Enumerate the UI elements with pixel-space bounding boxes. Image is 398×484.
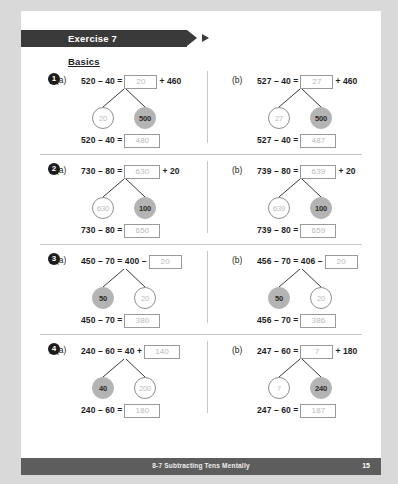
exercise-banner: Exercise 7 bbox=[21, 30, 204, 47]
bond-circle-left[interactable]: 27 bbox=[268, 107, 290, 129]
bond-circle-left: 50 bbox=[268, 287, 290, 309]
top-equation-prefix: 240 – 60 = 40 + bbox=[81, 346, 142, 356]
bond-circle-right: 500 bbox=[310, 107, 332, 129]
number-bond: 7240 bbox=[266, 357, 358, 401]
bottom-equation-prefix: 527 – 40 = bbox=[257, 135, 298, 145]
top-equation-prefix: 527 – 40 = bbox=[257, 76, 298, 86]
bottom-equation-prefix: 247 – 60 = bbox=[257, 405, 298, 415]
problem-1-part-a: (a)520 – 40 =20+ 46020500520 – 40 =480 bbox=[40, 65, 220, 155]
bond-circle-left: 50 bbox=[92, 287, 114, 309]
part-label: (a) bbox=[56, 165, 66, 175]
problem-4-part-b: (b)247 – 60 =7+ 1807240247 – 60 =187 bbox=[216, 335, 396, 425]
problem-1-part-b: (b)527 – 40 =27+ 46027500527 – 40 =487 bbox=[216, 65, 396, 155]
bond-circle-left[interactable]: 630 bbox=[92, 197, 114, 219]
bottom-equation: 520 – 40 =480 bbox=[81, 134, 162, 148]
banner-tip-icon bbox=[187, 30, 197, 46]
bottom-answer-box[interactable]: 659 bbox=[300, 224, 336, 238]
part-label: (b) bbox=[232, 165, 242, 175]
top-equation-suffix: + 460 bbox=[159, 76, 181, 86]
top-equation-prefix: 247 – 60 = bbox=[257, 346, 298, 356]
number-bond: 630100 bbox=[90, 177, 182, 221]
problem-2-part-b: (b)739 – 80 =639+ 20639100739 – 80 =659 bbox=[216, 155, 396, 245]
page-footer: 8-7 Subtracting Tens Mentally 15 bbox=[21, 458, 381, 475]
part-label: (a) bbox=[56, 345, 66, 355]
bottom-answer-box[interactable]: 650 bbox=[124, 224, 160, 238]
worksheet-page: Exercise 7 Basics 1(a)520 – 40 =20+ 4602… bbox=[21, 11, 381, 475]
part-label: (b) bbox=[232, 75, 242, 85]
bond-circle-left[interactable]: 639 bbox=[268, 197, 290, 219]
problem-4: 4(a)240 – 60 = 40 +14040200240 – 60 =180… bbox=[21, 335, 381, 425]
part-label: (b) bbox=[232, 255, 242, 265]
part-label: (a) bbox=[56, 75, 66, 85]
bond-circle-right: 100 bbox=[310, 197, 332, 219]
bond-circle-left[interactable]: 7 bbox=[268, 377, 290, 399]
part-label: (b) bbox=[232, 345, 242, 355]
top-equation-prefix: 739 – 80 = bbox=[257, 166, 298, 176]
problem-3-part-b: (b)456 – 70 = 406 –205020456 – 70 =386 bbox=[216, 245, 396, 335]
bottom-equation-prefix: 240 – 60 = bbox=[81, 405, 122, 415]
bond-circle-right: 100 bbox=[134, 197, 156, 219]
top-equation-suffix: + 180 bbox=[335, 346, 357, 356]
bottom-equation-prefix: 730 – 80 = bbox=[81, 225, 122, 235]
top-equation-prefix: 456 – 70 = 406 – bbox=[257, 256, 323, 266]
banner-arrow-icon bbox=[202, 34, 209, 42]
top-equation-suffix: + 460 bbox=[335, 76, 357, 86]
problem-3: 3(a)450 – 70 = 400 –205020450 – 70 =380(… bbox=[21, 245, 381, 335]
number-bond: 5020 bbox=[266, 267, 358, 311]
bottom-answer-box[interactable]: 180 bbox=[124, 404, 160, 418]
bottom-equation-prefix: 456 – 70 = bbox=[257, 315, 298, 325]
number-bond: 27500 bbox=[266, 87, 358, 131]
problem-4-part-a: (a)240 – 60 = 40 +14040200240 – 60 =180 bbox=[40, 335, 220, 425]
bottom-answer-box[interactable]: 480 bbox=[124, 134, 160, 148]
bond-circle-right[interactable]: 20 bbox=[134, 287, 156, 309]
bond-circle-left: 40 bbox=[92, 377, 114, 399]
bottom-answer-box[interactable]: 386 bbox=[300, 314, 336, 328]
problem-2: 2(a)730 – 80 =630+ 20630100730 – 80 =650… bbox=[21, 155, 381, 245]
bond-circle-right: 240 bbox=[310, 377, 332, 399]
problem-1: 1(a)520 – 40 =20+ 46020500520 – 40 =480(… bbox=[21, 65, 381, 155]
bottom-answer-box[interactable]: 187 bbox=[300, 404, 336, 418]
bottom-equation: 450 – 70 =380 bbox=[81, 314, 162, 328]
problem-2-part-a: (a)730 – 80 =630+ 20630100730 – 80 =650 bbox=[40, 155, 220, 245]
bottom-answer-box[interactable]: 487 bbox=[300, 134, 336, 148]
number-bond: 40200 bbox=[90, 357, 182, 401]
bottom-equation-prefix: 520 – 40 = bbox=[81, 135, 122, 145]
top-equation-suffix: + 20 bbox=[162, 166, 179, 176]
bottom-equation: 527 – 40 =487 bbox=[257, 134, 338, 148]
bond-circle-right: 500 bbox=[134, 107, 156, 129]
bottom-answer-box[interactable]: 380 bbox=[124, 314, 160, 328]
footer-page-number: 15 bbox=[362, 462, 370, 469]
top-equation-suffix: + 20 bbox=[338, 166, 355, 176]
bond-circle-right[interactable]: 200 bbox=[134, 377, 156, 399]
bond-circle-right[interactable]: 20 bbox=[310, 287, 332, 309]
part-label: (a) bbox=[56, 255, 66, 265]
footer-title: 8-7 Subtracting Tens Mentally bbox=[21, 462, 381, 469]
bottom-equation-prefix: 739 – 80 = bbox=[257, 225, 298, 235]
bottom-equation-prefix: 450 – 70 = bbox=[81, 315, 122, 325]
bottom-equation: 456 – 70 =386 bbox=[257, 314, 338, 328]
top-equation-prefix: 450 – 70 = 400 – bbox=[81, 256, 147, 266]
bond-circle-left[interactable]: 20 bbox=[92, 107, 114, 129]
bottom-equation: 247 – 60 =187 bbox=[257, 404, 338, 418]
exercise-title: Exercise 7 bbox=[68, 33, 117, 44]
number-bond: 639100 bbox=[266, 177, 358, 221]
number-bond: 5020 bbox=[90, 267, 182, 311]
bottom-equation: 739 – 80 =659 bbox=[257, 224, 338, 238]
bottom-equation: 730 – 80 =650 bbox=[81, 224, 162, 238]
top-equation-prefix: 520 – 40 = bbox=[81, 76, 122, 86]
problem-3-part-a: (a)450 – 70 = 400 –205020450 – 70 =380 bbox=[40, 245, 220, 335]
top-equation-prefix: 730 – 80 = bbox=[81, 166, 122, 176]
number-bond: 20500 bbox=[90, 87, 182, 131]
bottom-equation: 240 – 60 =180 bbox=[81, 404, 162, 418]
